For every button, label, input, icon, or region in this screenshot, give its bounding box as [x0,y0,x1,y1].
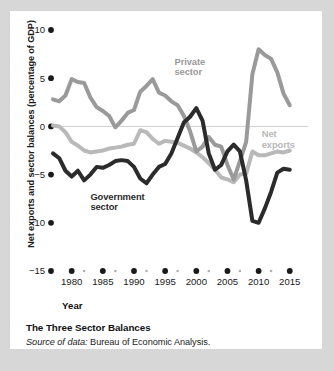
y-tick-dot [48,172,54,178]
x-tick-dot [256,268,262,274]
caption-source-text: Bureau of Economic Analysis. [90,337,210,347]
x-tick-dot [225,268,231,274]
x-tick-label: 2000 [186,276,207,287]
y-tick-label: 5 [40,73,45,84]
x-tick-dot [193,268,199,274]
y-tick-dot [48,27,54,33]
series-line-private-sector [53,49,290,179]
chart-area: Net exports and sector balances (percent… [10,11,322,301]
caption-source: Source of data: Bureau of Economic Analy… [26,337,316,347]
x-tick-dot [287,268,293,274]
x-tick-minor-dot [83,270,86,273]
x-tick-minor-dot [270,270,273,273]
x-tick-minor-dot [145,270,148,273]
figure-page: Net exports and sector balances (percent… [0,0,334,371]
annotation-net-exports: exports [262,139,295,150]
x-tick-label: 1995 [154,276,175,287]
x-tick-dot [69,268,75,274]
annotation-private-sector: Private [175,56,206,67]
annotation-government-sector: sector [90,201,118,212]
series-lines [53,49,290,223]
y-tick-dot [48,268,54,274]
series-line-government-sector [53,108,290,223]
y-tick-dot [48,75,54,81]
annotation-private-sector: sector [175,66,203,77]
x-tick-minor-dot [176,270,179,273]
page-top-bleed [0,0,334,11]
annotation-net-exports: Net [262,128,277,139]
x-tick-label: 2005 [217,276,238,287]
x-tick-dot [131,268,137,274]
y-tick-label: 10 [34,24,45,35]
x-tick-minor-dot [114,270,117,273]
x-tick-label: 2010 [248,276,269,287]
x-tick-dot [100,268,106,274]
y-axis-label: Net exports and sector balances (percent… [26,9,36,259]
caption-source-prefix: Source of data: [26,337,88,347]
y-tick-dot [48,220,54,226]
y-tick-label: −15 [29,265,45,276]
x-tick-minor-dot [207,270,210,273]
x-tick-label: 1985 [92,276,113,287]
x-tick-label: 1980 [61,276,82,287]
x-tick-label: 2015 [279,276,300,287]
figure-caption: The Three Sector Balances Source of data… [26,322,316,347]
y-tick-label: 0 [40,121,45,132]
x-axis-label: Year [62,300,83,311]
x-axis-ticks: 19801985199019952000200520102015 [61,268,300,286]
annotation-government-sector: Government [90,191,144,202]
figure-card: Net exports and sector balances (percent… [10,11,322,349]
caption-title: The Three Sector Balances [26,322,316,333]
x-tick-minor-dot [239,270,242,273]
x-tick-dot [162,268,168,274]
three-sector-balances-chart: 1050−5−10−15 198019851990199520002005201… [10,11,322,301]
x-tick-label: 1990 [123,276,144,287]
